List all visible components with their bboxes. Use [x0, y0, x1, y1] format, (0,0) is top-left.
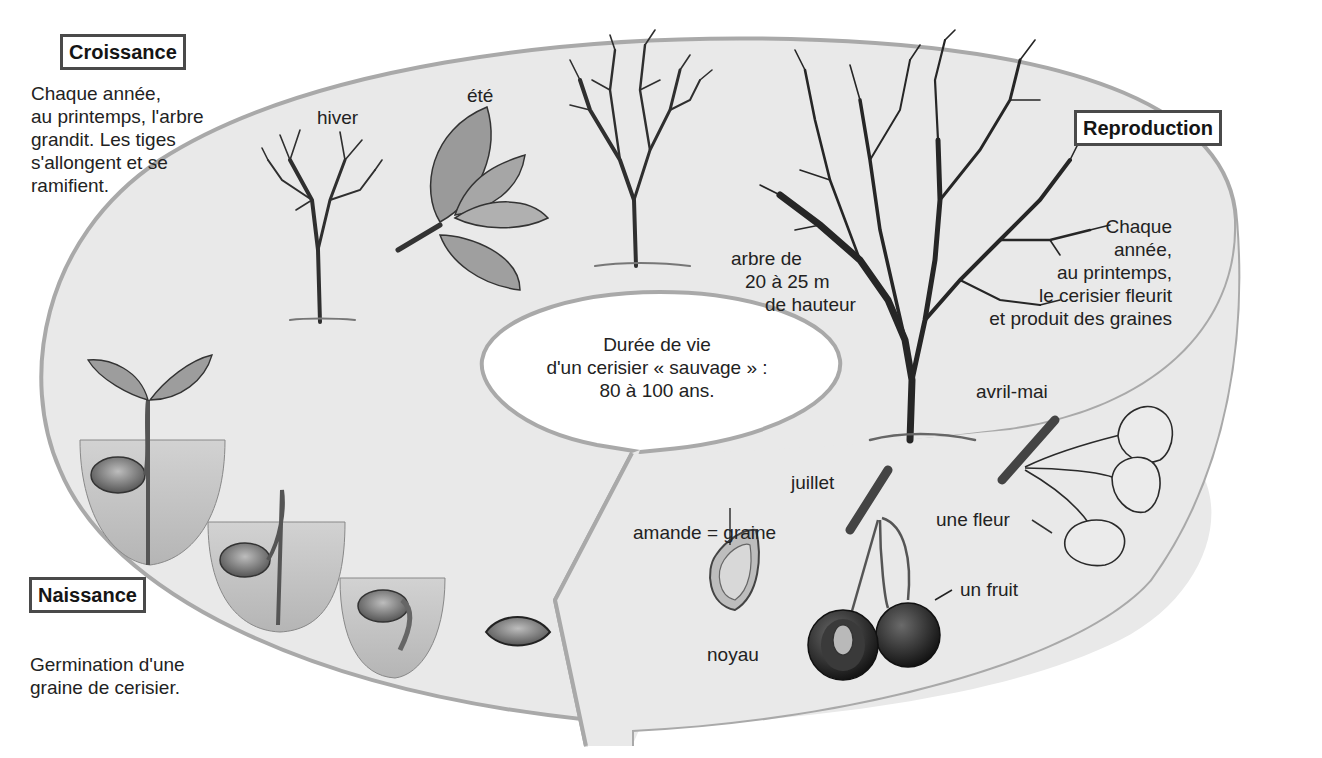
label-un-fruit: un fruit [960, 578, 1018, 601]
lifespan-line-3: 80 à 100 ans. [492, 379, 822, 402]
stage-title-reproduction: Reproduction [1074, 110, 1222, 146]
lifespan-line-1: Durée de vie [492, 333, 822, 356]
naissance-line-2: graine de cerisier. [30, 676, 185, 699]
label-hiver: hiver [317, 106, 358, 129]
label-amande-graine: amande = graine [633, 521, 776, 544]
reproduction-line-2: année, [989, 238, 1172, 261]
croissance-line-3: grandit. Les tiges [31, 128, 204, 151]
reproduction-line-5: et produit des graines [989, 307, 1172, 330]
reproduction-line-1: Chaque [989, 215, 1172, 238]
croissance-line-2: au printemps, l'arbre [31, 105, 204, 128]
label-juillet: juillet [791, 471, 834, 494]
croissance-line-1: Chaque année, [31, 82, 204, 105]
croissance-description: Chaque année, au printemps, l'arbre gran… [31, 82, 204, 197]
tree-height-line-2: 20 à 25 m [731, 270, 856, 293]
label-une-fleur: une fleur [936, 508, 1010, 531]
naissance-description: Germination d'une graine de cerisier. [30, 653, 185, 699]
tree-height-label: arbre de 20 à 25 m de hauteur [731, 247, 856, 316]
label-noyau: noyau [707, 643, 759, 666]
label-avril-mai: avril-mai [976, 380, 1048, 403]
lifespan-text: Durée de vie d'un cerisier « sauvage » :… [492, 333, 822, 402]
tree-height-line-1: arbre de [731, 247, 856, 270]
croissance-line-5: ramifient. [31, 174, 204, 197]
reproduction-description: Chaque année, au printemps, le cerisier … [989, 215, 1172, 330]
tree-height-line-3: de hauteur [731, 293, 856, 316]
label-ete: été [467, 84, 493, 107]
stage-title-naissance: Naissance [29, 577, 146, 613]
reproduction-line-3: au printemps, [989, 261, 1172, 284]
reproduction-line-4: le cerisier fleurit [989, 284, 1172, 307]
naissance-line-1: Germination d'une [30, 653, 185, 676]
lifespan-line-2: d'un cerisier « sauvage » : [492, 356, 822, 379]
stage-title-croissance: Croissance [60, 34, 186, 70]
croissance-line-4: s'allongent et se [31, 151, 204, 174]
